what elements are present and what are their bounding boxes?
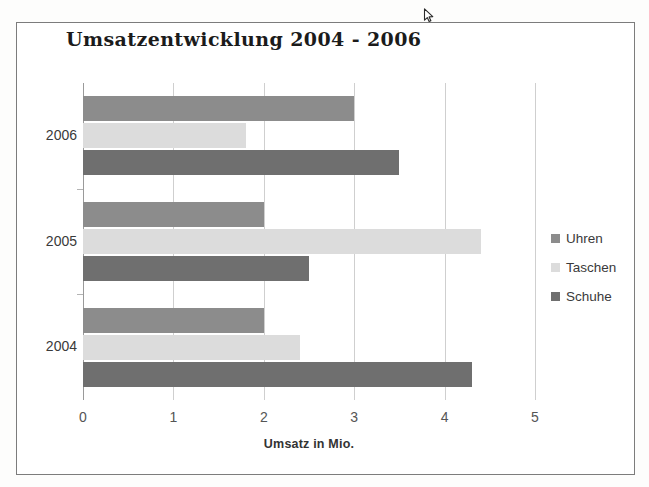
- bar-schuhe-2005: [83, 256, 309, 281]
- bar-schuhe-2004: [83, 362, 472, 387]
- legend-item-uhren[interactable]: Uhren: [551, 224, 631, 253]
- chart-title: Umsatzentwicklung 2004 - 2006: [66, 28, 486, 50]
- bar-uhren-2006: [83, 96, 354, 121]
- x-tick-label-1: 1: [161, 409, 185, 425]
- y-tick-label-2005: 2005: [22, 233, 77, 249]
- y-axis-tick-1: [77, 189, 83, 190]
- y-tick-label-2004: 2004: [22, 338, 77, 354]
- bar-uhren-2004: [83, 308, 264, 333]
- legend-label-uhren: Uhren: [566, 231, 603, 246]
- y-tick-label-2006: 2006: [22, 127, 77, 143]
- scanned-page: Umsatzentwicklung 2004 - 2006 Umsatz in …: [0, 0, 649, 487]
- x-tick-label-5: 5: [523, 409, 547, 425]
- bar-uhren-2005: [83, 202, 264, 227]
- legend-item-taschen[interactable]: Taschen: [551, 253, 631, 282]
- legend-swatch-icon-schuhe: [551, 292, 560, 301]
- bar-taschen-2006: [83, 123, 246, 148]
- legend-label-schuhe: Schuhe: [566, 289, 612, 304]
- x-axis-title: Umsatz in Mio.: [83, 437, 535, 451]
- legend-label-taschen: Taschen: [566, 260, 616, 275]
- x-tick-label-2: 2: [252, 409, 276, 425]
- bar-schuhe-2006: [83, 150, 399, 175]
- chart-legend: UhrenTaschenSchuhe: [551, 224, 631, 311]
- x-tick-label-0: 0: [71, 409, 95, 425]
- gridline-x-5: [535, 83, 536, 400]
- x-tick-label-3: 3: [342, 409, 366, 425]
- legend-swatch-icon-uhren: [551, 234, 560, 243]
- bar-taschen-2004: [83, 335, 300, 360]
- legend-item-schuhe[interactable]: Schuhe: [551, 282, 631, 311]
- bar-taschen-2005: [83, 229, 481, 254]
- legend-swatch-icon-taschen: [551, 263, 560, 272]
- y-axis-tick-2: [77, 294, 83, 295]
- x-tick-label-4: 4: [433, 409, 457, 425]
